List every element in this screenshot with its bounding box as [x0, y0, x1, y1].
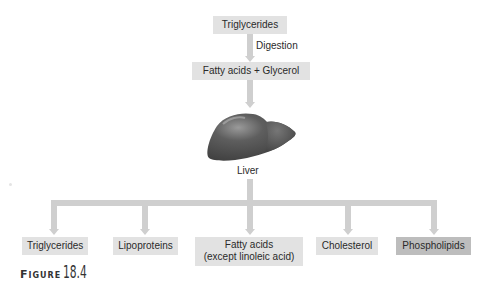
drop-lipoproteins [142, 200, 148, 229]
caption-number: 18.4 [63, 262, 87, 282]
drop-phospholipids [431, 200, 437, 229]
figure-caption: Figure18.4 [20, 262, 97, 282]
drop-lipoproteins-head [140, 229, 150, 235]
product-box-fatty-acids-glycerol: Fatty acids + Glycerol [192, 62, 310, 80]
arrow-to-liver-head [245, 102, 255, 108]
output-label-line2: (except linoleic acid) [200, 251, 298, 263]
output-box-triglycerides: Triglycerides [22, 237, 88, 255]
liver-label: Liver [237, 165, 259, 177]
drop-phospholipids-head [429, 229, 439, 235]
output-label: Triglycerides [27, 240, 83, 251]
arrow-digestion-shaft [247, 34, 253, 56]
drop-triglycerides [51, 200, 57, 229]
output-box-fatty-acids: Fatty acids (except linoleic acid) [195, 237, 303, 266]
digestion-label: Digestion [256, 40, 298, 52]
product-label: Fatty acids + Glycerol [203, 65, 299, 76]
output-label: Cholesterol [322, 240, 373, 251]
distribution-bar [51, 200, 437, 206]
drop-fatty-acids-head [245, 229, 255, 235]
liver-icon [203, 110, 299, 164]
output-box-phospholipids: Phospholipids [396, 237, 471, 255]
input-box-triglycerides: Triglycerides [213, 16, 287, 34]
input-label: Triglycerides [222, 19, 278, 30]
output-box-lipoproteins: Lipoproteins [113, 237, 178, 255]
drop-fatty-acids [247, 200, 253, 229]
speck [9, 183, 12, 186]
output-label: Phospholipids [402, 240, 464, 251]
drop-cholesterol-head [343, 229, 353, 235]
caption-word: Figure [20, 268, 61, 281]
arrow-to-liver-shaft [247, 80, 253, 102]
output-box-cholesterol: Cholesterol [316, 237, 378, 255]
drop-triglycerides-head [49, 229, 59, 235]
output-label-line1: Fatty acids [200, 239, 298, 251]
drop-cholesterol [345, 200, 351, 229]
output-label: Lipoproteins [118, 240, 172, 251]
